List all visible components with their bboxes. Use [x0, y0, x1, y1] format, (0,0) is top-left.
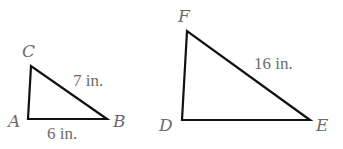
- side-ef-measurement: 16 in.: [254, 54, 293, 73]
- vertex-label-c: C: [22, 41, 35, 61]
- triangle-def-outline: [182, 31, 310, 120]
- vertex-label-e: E: [315, 115, 329, 135]
- vertex-label-b: B: [112, 111, 126, 131]
- vertex-label-d: D: [158, 115, 173, 135]
- side-ab-measurement: 6 in.: [47, 124, 77, 143]
- triangle-abc: C A B 7 in. 6 in.: [6, 41, 126, 143]
- vertex-label-f: F: [177, 6, 191, 26]
- vertex-label-a: A: [6, 111, 20, 131]
- side-bc-measurement: 7 in.: [73, 71, 103, 90]
- triangle-def: F D E 16 in.: [158, 6, 329, 135]
- similar-triangles-diagram: C A B 7 in. 6 in. F D E 16 in.: [0, 0, 343, 149]
